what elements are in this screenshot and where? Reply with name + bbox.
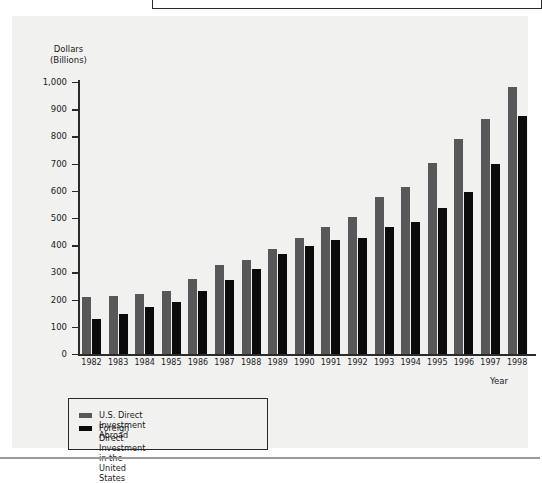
y-axis-tick (72, 109, 79, 110)
bar (454, 139, 463, 354)
bar (268, 249, 277, 354)
bar (109, 296, 118, 354)
y-axis-tick (72, 191, 79, 192)
bar (348, 217, 357, 354)
y-axis-tick-label: 800 (12, 131, 67, 141)
bar (198, 291, 207, 354)
bar (82, 297, 91, 354)
bar (401, 187, 410, 354)
bar (358, 238, 367, 354)
bar (411, 222, 420, 354)
page-divider-rule (0, 457, 540, 459)
y-axis-tick-label: 700 (12, 159, 67, 169)
bar (464, 192, 473, 354)
legend-swatch-black (79, 426, 92, 431)
y-axis-tick-label: 300 (12, 267, 67, 277)
y-axis-tick (72, 164, 79, 165)
y-axis-tick-label: 200 (12, 295, 67, 305)
figure-panel: Dollars (Billions) 010020030040050060070… (12, 16, 528, 448)
bar (172, 302, 181, 354)
y-axis-title: Dollars (Billions) (50, 44, 87, 65)
bar (242, 260, 251, 354)
y-axis-tick-label: 500 (12, 213, 67, 223)
bar (252, 269, 261, 354)
x-axis-title: Year (490, 376, 508, 386)
bar (518, 116, 527, 354)
y-axis-tick (72, 327, 79, 328)
y-axis-tick-label: 400 (12, 240, 67, 250)
page-frame-fragment (152, 0, 542, 9)
bar (215, 265, 224, 354)
bar (119, 314, 128, 354)
y-axis-tick-label: 1,000 (12, 77, 67, 87)
bar (145, 307, 154, 354)
bar (438, 208, 447, 354)
bar (428, 163, 437, 354)
x-axis-line (78, 354, 536, 356)
bar (225, 280, 234, 354)
bar (491, 164, 500, 354)
legend-swatch-gray (79, 413, 92, 418)
bar (375, 197, 384, 354)
bar (92, 319, 101, 354)
bar (188, 279, 197, 354)
bar (331, 240, 340, 354)
y-axis-tick (72, 245, 79, 246)
bar (385, 227, 394, 354)
y-axis-tick (72, 218, 79, 219)
y-axis-tick (72, 136, 79, 137)
y-axis-tick-label: 600 (12, 186, 67, 196)
bar (278, 254, 287, 354)
bar (135, 294, 144, 354)
y-axis-tick-label: 100 (12, 322, 67, 332)
bar (162, 291, 171, 354)
y-axis-tick (72, 300, 79, 301)
y-axis-tick-label: 0 (12, 349, 67, 359)
chart-legend: U.S. Direct Investment AbroadForeign Dir… (68, 398, 268, 450)
y-axis-tick-label: 900 (12, 104, 67, 114)
legend-item-label: Foreign Direct Investment in the United … (99, 423, 145, 483)
bar (508, 87, 517, 354)
y-axis-tick (72, 272, 79, 273)
bar (295, 238, 304, 354)
bar (481, 119, 490, 354)
bar (305, 246, 314, 354)
y-axis-tick (72, 82, 79, 83)
bar (321, 227, 330, 354)
x-axis-tick-label: 1998 (500, 358, 534, 367)
y-axis-tick (72, 354, 79, 355)
